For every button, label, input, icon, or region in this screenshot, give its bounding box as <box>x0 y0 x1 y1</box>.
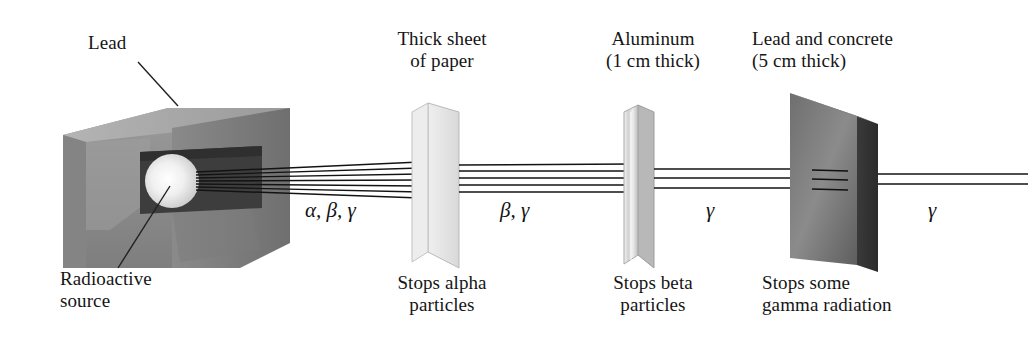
paper-barrier-top-label: Thick sheet of paper <box>372 28 512 73</box>
lead-leader-line <box>138 62 178 106</box>
beam-label-gamma-1: γ <box>706 198 714 223</box>
lead-label: Lead <box>88 32 126 54</box>
paper-barrier-bottom-label: Stops alpha particles <box>372 272 512 317</box>
aluminum-barrier <box>624 105 654 268</box>
beam-label-gamma-2: γ <box>928 198 936 223</box>
aluminum-barrier-bottom-label: Stops beta particles <box>578 272 728 317</box>
radiation-penetration-diagram: Lead Radioactive source Thick sheet of p… <box>0 0 1028 342</box>
aluminum-barrier-top-label: Aluminum (1 cm thick) <box>578 28 728 73</box>
lead-concrete-bottom-label: Stops some gamma radiation <box>762 272 892 317</box>
beam-label-beta-gamma: β, γ <box>500 198 529 223</box>
lead-concrete-barrier <box>790 93 878 272</box>
beam-after-lead-concrete <box>878 174 1028 184</box>
radioactive-source-label: Radioactive source <box>60 268 152 313</box>
beam-after-paper <box>459 164 632 192</box>
lead-concrete-top-label: Lead and concrete (5 cm thick) <box>752 28 893 73</box>
beam-label-alpha-beta-gamma: α, β, γ <box>305 198 356 223</box>
paper-barrier <box>412 103 459 268</box>
radioactive-source-sphere <box>145 154 199 208</box>
beam-after-aluminum <box>654 169 812 188</box>
